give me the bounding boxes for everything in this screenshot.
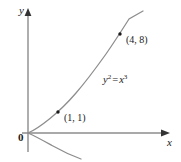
point-marker-4-8: [118, 32, 121, 35]
origin-label: 0: [18, 132, 24, 143]
figure-container: y x 0 (1, 1) (4, 8) y2=x3: [0, 0, 181, 162]
curve-equation-label: y2=x3: [103, 75, 127, 86]
equation-operator: =: [111, 74, 119, 85]
y-axis-arrowhead: [25, 8, 32, 16]
figure-canvas: [0, 0, 181, 162]
x-axis-label: x: [167, 137, 172, 148]
point-marker-1-1: [56, 110, 59, 113]
equation-rhs-exponent: 3: [124, 73, 128, 81]
curve-lower-branch: [28, 133, 81, 159]
point-label-1-1: (1, 1): [64, 113, 86, 123]
point-label-4-8: (4, 8): [126, 35, 148, 45]
y-axis-label: y: [19, 5, 24, 16]
